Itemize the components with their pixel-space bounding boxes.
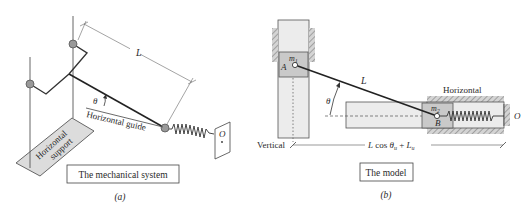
joint-left xyxy=(26,80,34,88)
joint-top xyxy=(69,40,77,48)
dimension-ext-bottom xyxy=(167,78,193,124)
length-L-label: L xyxy=(135,47,142,58)
horizontal-ground-hatch-top xyxy=(427,96,504,102)
vertical-ground-hatch-left xyxy=(272,28,278,62)
figure-a-mechanical-system: Horizontal support Horizontal guide θ L xyxy=(16,16,230,203)
crank-arm xyxy=(30,74,69,94)
angle-theta-label-b: θ xyxy=(326,96,331,106)
joint-slider xyxy=(161,124,169,132)
anchor-O-label-b: O xyxy=(514,111,521,121)
vertical-ground-hatch-right xyxy=(309,28,315,62)
pin-B xyxy=(434,113,439,118)
anchor-O-label: O xyxy=(219,129,226,139)
diagram-canvas: Horizontal support Horizontal guide θ L xyxy=(0,0,531,216)
caption-b: (b) xyxy=(380,190,391,201)
vertical-label: Vertical xyxy=(257,140,285,150)
crank-arm-upper xyxy=(69,44,87,74)
wall-O-hatch xyxy=(504,104,510,126)
horizontal-label: Horizontal xyxy=(443,85,482,95)
point-B-label: B xyxy=(435,118,441,128)
anchor-plate xyxy=(215,122,230,159)
anchor-pin xyxy=(221,141,223,143)
vertical-guide-channel xyxy=(278,20,309,138)
spring xyxy=(169,124,214,138)
angle-arc-b xyxy=(330,85,339,115)
horizontal-ground-hatch-bottom xyxy=(427,128,504,134)
caption-a: (a) xyxy=(114,192,125,203)
model-title: The model xyxy=(366,168,407,178)
point-A-label: A xyxy=(280,62,287,72)
pin-A xyxy=(292,62,297,67)
mechanical-system-title: The mechanical system xyxy=(78,170,168,180)
rod-L-label: L xyxy=(360,75,367,86)
dimension-label-b: L cos θu + Lu xyxy=(367,140,415,151)
figure-b-model: m1 A O Horizontal m2 B L θ xyxy=(257,20,521,201)
angle-theta-label: θ xyxy=(93,96,98,106)
